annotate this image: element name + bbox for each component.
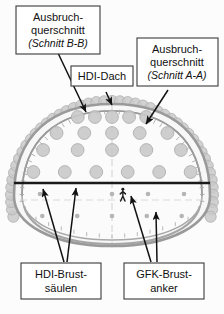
hdi-column (58, 166, 71, 179)
hdi-column (37, 144, 50, 157)
label-aa-line2: querschnitt (150, 56, 204, 68)
gfk-anchor (110, 214, 115, 219)
hdi-column (175, 144, 188, 157)
gfk-anchor (75, 214, 80, 219)
gfk-anchor (38, 192, 43, 197)
label-bb-line1: Ausbruch- (33, 11, 83, 23)
gfk-anchor (182, 192, 187, 197)
hdi-column (27, 166, 40, 179)
label-aa-line3: (Schnitt A-A) (147, 69, 206, 81)
label-bb-line3: (Schnitt B-B) (28, 37, 88, 49)
gfk-anchor (40, 214, 45, 219)
hdi-column (106, 111, 119, 124)
label-hdi-brust-line1: HDI-Brust- (35, 268, 87, 280)
label-box-hdi-dach[interactable]: HDI-Dach (71, 66, 133, 86)
label-box-gfk-brustanker[interactable]: GFK-Brust- anker (124, 263, 204, 299)
hdi-column (140, 144, 153, 157)
label-box-schnitt-aa[interactable]: Ausbruch- querschnitt (Schnitt A-A) (137, 38, 218, 86)
gfk-anchor (179, 214, 184, 219)
hdi-column (71, 144, 84, 157)
label-hdi-brust-line2: säulen (45, 282, 77, 294)
arrow-to-gfk-anchor-outer (156, 212, 157, 262)
hdi-column (123, 111, 136, 124)
label-gfk-line1: GFK-Brust- (136, 268, 192, 280)
gfk-anchor (110, 192, 115, 197)
lining-tick (20, 187, 24, 188)
hdi-column (161, 127, 174, 140)
hdi-column (106, 144, 119, 157)
hdi-column (133, 127, 146, 140)
hdi-column (50, 127, 63, 140)
diagram-canvas: Ausbruch- querschnitt (Schnitt B-B) HDI-… (0, 0, 224, 314)
label-bb-line2: querschnitt (31, 24, 85, 36)
hdi-column (90, 166, 103, 179)
hdi-column (71, 111, 84, 124)
label-aa-line1: Ausbruch- (152, 43, 202, 55)
gfk-anchor (146, 192, 151, 197)
hdi-column (121, 166, 134, 179)
tunnel-cross-section-diagram: Ausbruch- querschnitt (Schnitt B-B) HDI-… (0, 0, 224, 314)
label-hdi-dach-line1: HDI-Dach (78, 70, 126, 82)
lining-tick (200, 187, 204, 188)
gfk-anchor (145, 214, 150, 219)
hdi-column (106, 127, 119, 140)
hdi-column (184, 166, 197, 179)
label-box-schnitt-bb[interactable]: Ausbruch- querschnitt (Schnitt B-B) (16, 6, 100, 54)
label-box-hdi-brustsaeulen[interactable]: HDI-Brust- säulen (21, 263, 101, 299)
hdi-column (89, 111, 102, 124)
label-gfk-line2: anker (150, 282, 178, 294)
hdi-column (78, 127, 91, 140)
hdi-column (153, 166, 166, 179)
